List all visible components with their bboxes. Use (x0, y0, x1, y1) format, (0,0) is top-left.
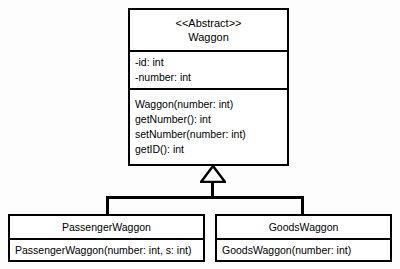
class-name-compartment-passengerwaggon: PassengerWaggon (10, 216, 203, 238)
class-stereotype: <<Abstract>> (175, 16, 241, 30)
class-name-compartment-waggon: <<Abstract>> Waggon (130, 10, 287, 50)
operation-item: getID(): int (135, 142, 287, 157)
operation-item: setNumber(number: int) (135, 127, 287, 142)
connector-horizontal-bar (106, 196, 304, 199)
class-box-goodswaggon[interactable]: GoodsWaggon GoodsWaggon(number: int) (215, 214, 392, 262)
generalization-triangle-icon (200, 165, 226, 183)
connector-drop-goods (301, 196, 304, 215)
operations-compartment-passengerwaggon: PassengerWaggon(number: int, s: int) (10, 238, 203, 260)
attribute-item: -number: int (135, 70, 287, 85)
class-name: Waggon (188, 30, 229, 44)
class-name: GoodsWaggon (269, 220, 339, 234)
connector-drop-passenger (106, 196, 109, 215)
attributes-compartment-waggon: -id: int -number: int (130, 50, 287, 88)
attribute-item: -id: int (135, 55, 287, 70)
operation-item: Waggon(number: int) (135, 97, 287, 112)
operations-compartment-waggon: Waggon(number: int) getNumber(): int set… (130, 88, 287, 164)
class-box-waggon[interactable]: <<Abstract>> Waggon -id: int -number: in… (128, 8, 289, 166)
operation-item: getNumber(): int (135, 112, 287, 127)
class-name: PassengerWaggon (62, 220, 151, 234)
operation-item: GoodsWaggon(number: int) (222, 243, 390, 258)
operation-item: PassengerWaggon(number: int, s: int) (15, 243, 203, 258)
class-name-compartment-goodswaggon: GoodsWaggon (217, 216, 390, 238)
uml-class-diagram-canvas: <<Abstract>> Waggon -id: int -number: in… (0, 0, 400, 269)
operations-compartment-goodswaggon: GoodsWaggon(number: int) (217, 238, 390, 260)
class-box-passengerwaggon[interactable]: PassengerWaggon PassengerWaggon(number: … (8, 214, 205, 262)
